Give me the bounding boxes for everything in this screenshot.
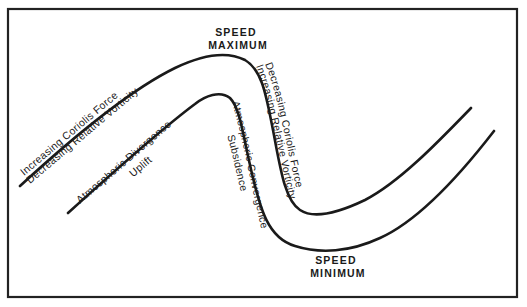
increasing-coriolis-label: Increasing Coriolis Force xyxy=(18,89,120,178)
diagram-frame xyxy=(8,9,517,297)
decreasing-vorticity-label: Decreasing Relative Vorticity xyxy=(24,84,141,185)
jet-stream-diagram: SPEED MAXIMUM SPEED MINIMUM Increasing C… xyxy=(0,0,527,307)
speed-minimum-label: SPEED MINIMUM xyxy=(310,254,366,279)
speed-maximum-label: SPEED MAXIMUM xyxy=(208,26,268,51)
